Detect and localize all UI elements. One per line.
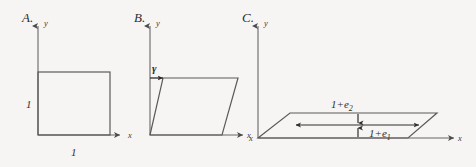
panel-a-x-axis-label: x xyxy=(127,130,132,140)
panel-a: A. y x 1 1 xyxy=(21,10,132,158)
panel-b-y-axis-label: y xyxy=(155,18,160,28)
panel-c-strain-label-top-subscript: 2 xyxy=(349,104,353,113)
panel-c-x-axis-label: x xyxy=(457,133,462,143)
panel-a-y-axis-label: y xyxy=(43,18,48,28)
panel-a-unit-square xyxy=(38,72,110,135)
panel-c-strain-label-bottom-subscript: 1 xyxy=(387,133,391,142)
panel-c-strain-label-bottom: 1+e1 xyxy=(369,127,391,142)
strain-diagram-figure: A. y x 1 1 B. y x γ C. y x xyxy=(0,0,476,167)
diagram-canvas: A. y x 1 1 B. y x γ C. y x xyxy=(0,0,476,167)
panel-b-sheared-parallelogram xyxy=(150,78,238,135)
panel-a-dimension-bottom: 1 xyxy=(71,146,77,158)
panel-c-letter: C. xyxy=(242,10,254,25)
panel-c-y-axis-label: y xyxy=(263,18,268,28)
panel-c-strain-label-top-text: 1+e xyxy=(331,98,349,110)
panel-b-shear-label: γ xyxy=(152,62,157,74)
panel-c: C. y x x 1+e2 1+e1 xyxy=(242,10,462,143)
panel-c-origin-label: x xyxy=(248,133,253,143)
panel-b: B. y x γ xyxy=(134,10,251,140)
panel-b-letter: B. xyxy=(134,10,145,25)
panel-c-strain-label-bottom-text: 1+e xyxy=(369,127,387,139)
panel-c-strain-label-top: 1+e2 xyxy=(331,98,353,113)
panel-a-letter: A. xyxy=(21,10,33,25)
panel-a-dimension-left: 1 xyxy=(26,98,32,110)
